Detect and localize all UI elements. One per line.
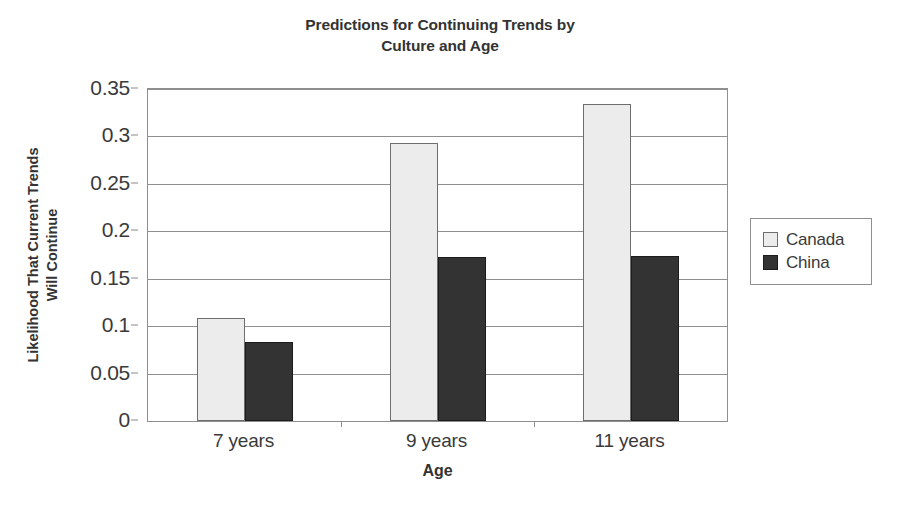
legend-swatch-canada-icon (763, 232, 778, 247)
legend-item-china[interactable]: China (763, 251, 861, 274)
y-axis-tick-labels: 00.050.10.150.20.250.30.35 (60, 88, 138, 422)
x-axis-tick-labels: 7 years9 years11 years (147, 430, 728, 456)
y-axis-tick-mark (131, 135, 138, 136)
bar-china-7-years (245, 342, 293, 421)
bar-china-9-years (438, 257, 486, 421)
y-axis-tick-mark (131, 230, 138, 231)
y-axis-tick-mark (131, 325, 138, 326)
y-axis-tick-label: 0.25 (90, 171, 130, 195)
x-axis-title: Age (147, 462, 728, 480)
y-axis-tick-mark (131, 420, 138, 421)
legend-label: China (786, 253, 829, 273)
y-axis-tick-label: 0.2 (102, 218, 130, 242)
bar-china-11-years (631, 256, 679, 421)
chart-page: { "chart_data": { "type": "bar", "title"… (0, 0, 904, 513)
gridline (148, 136, 727, 137)
chart-legend: CanadaChina (750, 218, 872, 285)
y-axis-tick-label: 0.1 (102, 313, 130, 337)
gridline (148, 184, 727, 185)
y-axis-tick-label: 0.05 (90, 361, 130, 385)
y-axis-tick-mark (131, 88, 138, 89)
y-axis-tick-label: 0.3 (102, 123, 130, 147)
chart-title-line-2: Culture and Age (180, 35, 700, 56)
bar-canada-9-years (390, 143, 438, 421)
gridline (148, 89, 727, 90)
chart-title-line-1: Predictions for Continuing Trends by (180, 14, 700, 35)
y-axis-tick-mark (131, 277, 138, 278)
x-axis-tick-label: 9 years (406, 430, 467, 452)
plot-area (147, 88, 728, 422)
x-axis-category-separator (341, 421, 342, 427)
legend-item-canada[interactable]: Canada (763, 228, 861, 251)
bar-canada-7-years (197, 318, 245, 421)
gridline (148, 231, 727, 232)
y-axis-title-line-1: Likelihood That Current Trends (24, 147, 43, 362)
y-axis-tick-mark (131, 182, 138, 183)
y-axis-tick-label: 0.15 (90, 266, 130, 290)
x-axis-tick-label: 11 years (595, 430, 665, 452)
legend-label: Canada (786, 230, 844, 250)
y-axis-tick-mark (131, 372, 138, 373)
bar-canada-11-years (583, 104, 631, 421)
x-axis-tick-label: 7 years (213, 430, 274, 452)
y-axis-tick-label: 0.35 (90, 76, 130, 100)
legend-swatch-china-icon (763, 255, 778, 270)
x-axis-category-separator (534, 421, 535, 427)
y-axis-tick-label: 0 (119, 408, 130, 432)
chart-title: Predictions for Continuing Trends by Cul… (180, 14, 700, 56)
